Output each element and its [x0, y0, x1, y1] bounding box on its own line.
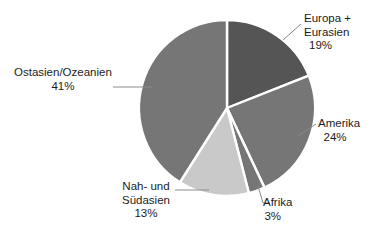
pie-label-afrika: Afrika 3% [263, 196, 292, 223]
pie-label-line-1: Afrika [263, 196, 292, 210]
pie-label-nah-und-suedasien: Nah- und Südasien 13% [122, 180, 170, 221]
pie-label-line-1: Nah- und [122, 180, 170, 194]
pie-label-amerika: Amerika 24% [318, 117, 360, 144]
pie-label-value: 24% [318, 131, 360, 145]
pie-label-value: 41% [14, 80, 112, 94]
pie-label-line-1: Europa + [304, 12, 351, 26]
pie-slices [139, 20, 315, 196]
pie-label-line-1: Amerika [318, 117, 360, 131]
pie-label-line-2: Eurasien [304, 26, 351, 40]
pie-label-ostasien-ozeanien: Ostasien/Ozeanien 41% [14, 66, 112, 93]
pie-label-value: 3% [263, 210, 292, 224]
pie-label-value: 13% [122, 207, 170, 221]
pie-label-europa-eurasien: Europa + Eurasien 19% [304, 12, 351, 53]
pie-label-line-1: Ostasien/Ozeanien [14, 66, 112, 80]
pie-label-line-2: Südasien [122, 194, 170, 208]
pie-chart-figure: Europa + Eurasien 19% Amerika 24% Afrika… [0, 0, 384, 242]
pie-label-value: 19% [304, 39, 351, 53]
leader-line-europa-eurasien [283, 24, 301, 40]
